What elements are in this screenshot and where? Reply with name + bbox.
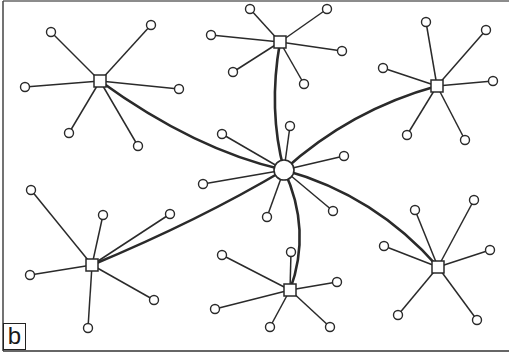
hub-square-icon xyxy=(274,36,286,48)
leaf-node-icon xyxy=(26,271,35,280)
leaf-node-icon xyxy=(333,278,342,287)
spoke-edge xyxy=(100,81,138,146)
leaf-node-icon xyxy=(286,122,295,131)
network-diagram xyxy=(0,0,509,357)
panel-label: b xyxy=(3,323,26,350)
spoke-edge xyxy=(438,267,477,320)
leaf-node-icon xyxy=(379,64,388,73)
leaf-node-icon xyxy=(65,129,74,138)
spoke-edge xyxy=(51,32,100,81)
spoke-edge xyxy=(88,265,92,328)
spoke-edge xyxy=(415,210,438,267)
leaf-node-icon xyxy=(287,248,296,257)
leaf-node-icon xyxy=(246,5,255,14)
leaf-node-icon xyxy=(166,210,175,219)
spokes xyxy=(25,9,493,328)
spoke-edge xyxy=(437,30,486,86)
spoke-edge xyxy=(383,68,437,86)
hub-links xyxy=(92,42,438,290)
leaf-node-icon xyxy=(218,130,227,139)
leaf-node-icon xyxy=(323,5,332,14)
leaf-node-icon xyxy=(263,213,272,222)
leaf-node-icon xyxy=(99,211,108,220)
spoke-edge xyxy=(222,255,290,290)
leaf-node-icon xyxy=(340,152,349,161)
spoke-edge xyxy=(426,22,437,86)
spoke-edge xyxy=(92,214,170,265)
leaf-node-icon xyxy=(175,85,184,94)
leaf-node-icon xyxy=(422,18,431,27)
spoke-edge xyxy=(31,190,92,265)
nodes xyxy=(21,5,498,333)
leaf-node-icon xyxy=(229,68,238,77)
leaf-node-icon xyxy=(394,311,403,320)
leaf-node-icon xyxy=(329,207,338,216)
spoke-edge xyxy=(211,35,280,42)
leaf-node-icon xyxy=(326,323,335,332)
hub-link-edge xyxy=(275,42,284,170)
center-hub-circle-icon xyxy=(274,160,294,180)
spoke-edge xyxy=(69,81,100,133)
leaf-node-icon xyxy=(84,324,93,333)
hub-square-icon xyxy=(432,261,444,273)
hub-link-edge xyxy=(92,170,284,265)
spoke-edge xyxy=(100,25,151,81)
hub-square-icon xyxy=(86,259,98,271)
hub-square-icon xyxy=(94,75,106,87)
leaf-node-icon xyxy=(150,296,159,305)
spoke-edge xyxy=(437,86,465,140)
leaf-node-icon xyxy=(482,26,491,35)
leaf-node-icon xyxy=(486,246,495,255)
spoke-edge xyxy=(437,81,493,86)
leaf-node-icon xyxy=(21,83,30,92)
spoke-edge xyxy=(233,42,280,72)
spoke-edge xyxy=(92,265,154,300)
spoke-edge xyxy=(215,290,290,309)
leaf-node-icon xyxy=(27,186,36,195)
leaf-node-icon xyxy=(134,142,143,151)
spoke-edge xyxy=(25,81,100,87)
spoke-edge xyxy=(280,42,342,51)
spoke-edge xyxy=(290,282,337,290)
leaf-node-icon xyxy=(211,305,220,314)
hub-link-edge xyxy=(284,170,300,290)
leaf-node-icon xyxy=(489,77,498,86)
leaf-node-icon xyxy=(403,131,412,140)
hub-square-icon xyxy=(431,80,443,92)
leaf-node-icon xyxy=(300,80,309,89)
hub-link-edge xyxy=(284,86,437,170)
hub-link-edge xyxy=(284,170,438,267)
spoke-edge xyxy=(92,215,103,265)
leaf-node-icon xyxy=(473,316,482,325)
hub-link-edge xyxy=(100,81,284,170)
leaf-node-icon xyxy=(470,196,479,205)
leaf-node-icon xyxy=(147,21,156,30)
spoke-edge xyxy=(280,9,327,42)
spoke-edge xyxy=(30,265,92,275)
spoke-edge xyxy=(100,81,179,89)
leaf-node-icon xyxy=(218,251,227,260)
leaf-node-icon xyxy=(461,136,470,145)
spoke-edge xyxy=(398,267,438,315)
leaf-node-icon xyxy=(207,31,216,40)
leaf-node-icon xyxy=(380,242,389,251)
leaf-node-icon xyxy=(411,206,420,215)
leaf-node-icon xyxy=(199,180,208,189)
leaf-node-icon xyxy=(266,323,275,332)
hub-square-icon xyxy=(284,284,296,296)
leaf-node-icon xyxy=(47,28,56,37)
leaf-node-icon xyxy=(338,47,347,56)
